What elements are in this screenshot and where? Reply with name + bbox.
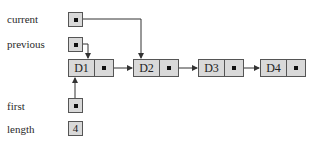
pointer-dot [74,43,78,47]
label-length: length [7,122,35,136]
pointer-dot [232,66,236,70]
pointer-dot [74,18,78,22]
pointer-box-current [68,12,83,27]
pointer-box-previous [68,37,83,52]
node-d2: D2 [133,59,179,77]
node-data: D3 [199,60,225,76]
label-previous: previous [7,37,45,51]
node-data: D2 [134,60,160,76]
pointer-dot [102,66,106,70]
node-next-pointer [95,60,113,76]
label-first: first [7,99,25,113]
node-next-pointer [225,60,243,76]
pointer-dot [167,66,171,70]
pointer-dot [74,104,78,108]
pointer-dot [294,66,298,70]
pointer-box-first [68,98,83,113]
node-data: D4 [261,60,287,76]
node-data: D1 [69,60,95,76]
node-d4: D4 [260,59,306,77]
node-next-pointer [160,60,178,76]
node-null-pointer [287,60,305,76]
value-box-length: 4 [68,121,83,136]
label-current: current [7,12,38,26]
node-d1: D1 [68,59,114,77]
node-d3: D3 [198,59,244,77]
arrow-current-to-d2 [75,19,141,58]
